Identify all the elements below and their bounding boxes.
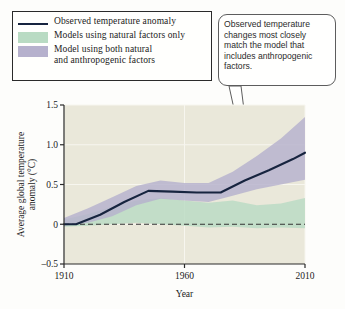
y-tick-label: 1.0 xyxy=(46,140,58,150)
y-axis-title-line: anomaly (°C) xyxy=(27,159,38,211)
y-tick-label: 0.5 xyxy=(46,180,58,190)
figure-container: Observed temperature anomaly Models usin… xyxy=(0,0,345,309)
y-axis-title-line: Average global temperature xyxy=(16,132,26,237)
x-tick-label: 2010 xyxy=(296,271,315,281)
x-tick-label: 1910 xyxy=(55,271,74,281)
y-tick-label: 1.5 xyxy=(46,100,58,110)
y-tick-label: 0 xyxy=(53,220,58,230)
chart-svg: –0.500.51.01.5191019602010YearAverage gl… xyxy=(0,0,345,309)
chart-plot-area: –0.500.51.01.5191019602010YearAverage gl… xyxy=(0,0,345,309)
y-tick-label: –0.5 xyxy=(40,259,58,269)
y-axis-title: Average global temperatureanomaly (°C) xyxy=(16,132,38,237)
x-axis-title: Year xyxy=(176,289,194,299)
x-tick-label: 1960 xyxy=(175,271,194,281)
